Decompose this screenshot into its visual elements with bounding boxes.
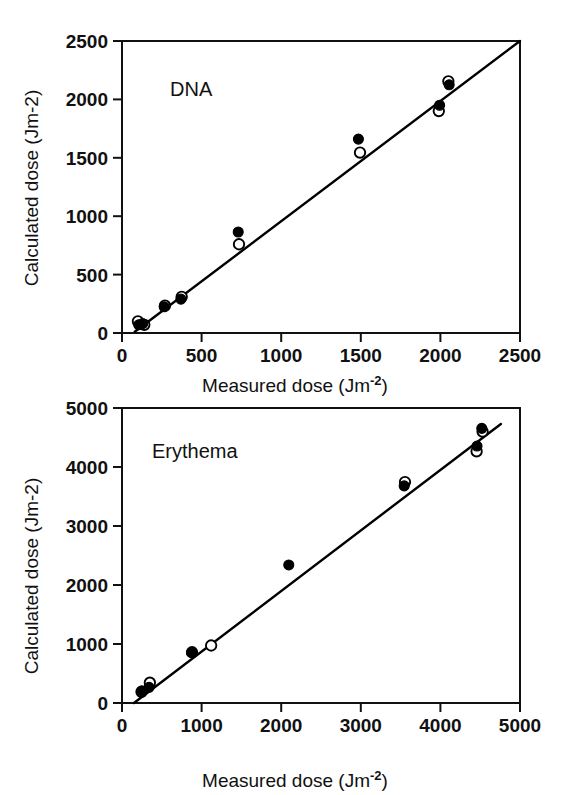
x-axis-tick-labels: 010002000300040005000 bbox=[117, 715, 541, 736]
data-point-filled bbox=[353, 134, 363, 144]
y-axis-title-tail: ) bbox=[21, 90, 42, 96]
x-tick-label: 1000 bbox=[180, 715, 222, 736]
y-axis-title-exponent: -2 bbox=[21, 96, 42, 113]
data-point-filled bbox=[187, 648, 197, 658]
y-tick-label: 2500 bbox=[66, 31, 108, 52]
y-axis-title-main: Calculated dose (Jm bbox=[21, 501, 42, 674]
y-tick-label: 1000 bbox=[66, 634, 108, 655]
y-axis-ticks bbox=[113, 41, 122, 333]
y-tick-label: 0 bbox=[97, 693, 108, 714]
data-point-open bbox=[355, 147, 365, 157]
data-points-filled-circles bbox=[137, 423, 487, 696]
panel-annotation-dna: DNA bbox=[170, 78, 213, 100]
x-tick-label: 2000 bbox=[260, 715, 302, 736]
data-point-open bbox=[234, 239, 244, 249]
y-axis-title-exponent: -2 bbox=[21, 484, 42, 501]
data-point-filled bbox=[284, 560, 294, 570]
x-axis-title-exponent: -2 bbox=[370, 373, 382, 388]
y-tick-label: 2000 bbox=[66, 575, 108, 596]
y-tick-label: 5000 bbox=[66, 398, 108, 419]
x-tick-label: 2000 bbox=[419, 345, 461, 366]
data-point-filled bbox=[159, 302, 169, 312]
regression-line bbox=[134, 424, 501, 703]
y-tick-label: 1500 bbox=[66, 148, 108, 169]
y-tick-label: 4000 bbox=[66, 457, 108, 478]
data-point-filled bbox=[176, 294, 186, 304]
y-tick-label: 3000 bbox=[66, 516, 108, 537]
x-axis-title-exponent: -2 bbox=[370, 768, 382, 783]
y-axis-ticks bbox=[113, 408, 122, 703]
y-axis-tick-labels: 05001000150020002500 bbox=[66, 31, 108, 344]
chart-panel-erythema: 010002000300040005000 010002000300040005… bbox=[0, 390, 573, 795]
y-tick-label: 500 bbox=[76, 265, 108, 286]
figure-container: 05001000150020002500 0500100015002000250… bbox=[0, 0, 573, 795]
x-axis-title-tail: ) bbox=[382, 770, 388, 791]
x-tick-label: 1000 bbox=[260, 345, 302, 366]
data-point-filled bbox=[472, 441, 482, 451]
data-point-filled bbox=[144, 682, 154, 692]
data-point-open bbox=[206, 640, 216, 650]
data-point-filled bbox=[233, 227, 243, 237]
x-axis-ticks bbox=[122, 703, 520, 712]
y-axis-title-main: Calculated dose (Jm bbox=[21, 113, 42, 286]
y-axis-title: Calculated dose (Jm-2) bbox=[21, 90, 42, 286]
x-tick-label: 500 bbox=[186, 345, 218, 366]
x-axis-title-main: Measured dose (Jm bbox=[202, 770, 370, 791]
x-tick-label: 4000 bbox=[419, 715, 461, 736]
y-tick-label: 2000 bbox=[66, 89, 108, 110]
data-point-filled bbox=[399, 481, 409, 491]
data-points-open-circles bbox=[133, 76, 454, 330]
dna-scatter-plot: 05001000150020002500 0500100015002000250… bbox=[0, 0, 573, 400]
panel-annotation-erythema: Erythema bbox=[152, 440, 238, 462]
data-point-filled bbox=[138, 319, 148, 329]
y-axis-tick-labels: 010002000300040005000 bbox=[66, 398, 108, 714]
y-tick-label: 0 bbox=[97, 323, 108, 344]
chart-panel-dna: 05001000150020002500 0500100015002000250… bbox=[0, 0, 573, 400]
x-tick-label: 1500 bbox=[340, 345, 382, 366]
x-axis-ticks bbox=[122, 333, 520, 342]
data-point-filled bbox=[435, 100, 445, 110]
x-tick-label: 5000 bbox=[499, 715, 541, 736]
y-axis-title: Calculated dose (Jm-2) bbox=[21, 478, 42, 674]
erythema-scatter-plot: 010002000300040005000 010002000300040005… bbox=[0, 390, 573, 795]
y-tick-label: 1000 bbox=[66, 206, 108, 227]
x-tick-label: 0 bbox=[117, 345, 128, 366]
y-axis-title-tail: ) bbox=[21, 478, 42, 484]
x-axis-tick-labels: 05001000150020002500 bbox=[117, 345, 541, 366]
data-point-filled bbox=[444, 80, 454, 90]
x-tick-label: 2500 bbox=[499, 345, 541, 366]
x-axis-title: Measured dose (Jm-2) bbox=[202, 768, 388, 791]
data-point-filled bbox=[477, 423, 487, 433]
x-tick-label: 3000 bbox=[340, 715, 382, 736]
x-tick-label: 0 bbox=[117, 715, 128, 736]
